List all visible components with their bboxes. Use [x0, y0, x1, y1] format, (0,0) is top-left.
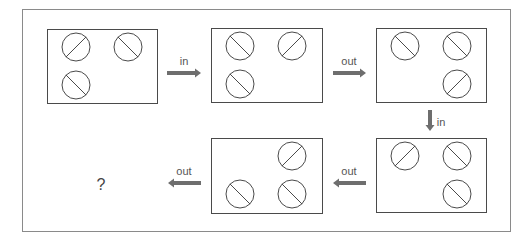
slot-circle-tl: [62, 33, 90, 61]
slash-forward-line: [66, 37, 86, 57]
arrow-out-2: out: [333, 55, 366, 78]
slash-back-line: [230, 184, 250, 204]
slash-back-line: [66, 75, 86, 95]
slot-circle-tr: [443, 142, 471, 170]
arrow-in-3: in: [426, 110, 446, 131]
slash-forward-line: [282, 36, 302, 56]
slot-circle-br: [278, 180, 306, 208]
slash-back-line: [118, 37, 138, 57]
slash-back-line: [230, 36, 250, 56]
slash-forward-line: [447, 74, 467, 94]
arrow-label: out: [341, 55, 356, 67]
panel-2: [212, 29, 323, 103]
slot-circle-tr: [114, 33, 142, 61]
slash-forward-line: [395, 146, 415, 166]
arrow-head: [333, 179, 339, 188]
slash-back-line: [395, 36, 415, 56]
answer-placeholder: ?: [97, 176, 106, 193]
arrow-in-1: in: [167, 55, 201, 78]
arrow-head: [195, 69, 201, 78]
slot-circle-bl: [226, 70, 254, 98]
arrow-label: out: [341, 165, 356, 177]
slash-back-line: [447, 36, 467, 56]
puzzle-diagram: inoutinoutout ?: [0, 0, 532, 241]
slot-circle-tl: [226, 32, 254, 60]
panel-4: [377, 139, 487, 213]
slash-back-line: [447, 184, 467, 204]
arrow-out-4: out: [333, 165, 366, 188]
slot-circle-tr: [278, 142, 306, 170]
slot-circle-bl: [62, 71, 90, 99]
slash-back-line: [282, 184, 302, 204]
arrow-label: in: [437, 116, 446, 128]
slot-circle-tr: [443, 32, 471, 60]
arrow-label: out: [176, 165, 191, 177]
slot-circle-br: [443, 70, 471, 98]
slot-circle-bl: [226, 180, 254, 208]
panel-5: [212, 139, 323, 214]
slash-back-line: [447, 146, 467, 166]
slot-circle-tr: [278, 32, 306, 60]
panel-1: [48, 30, 158, 104]
arrow-head: [426, 125, 435, 131]
slash-forward-line: [282, 146, 302, 166]
slot-circle-tl: [391, 142, 419, 170]
slash-back-line: [230, 74, 250, 94]
arrow-out-5: out: [168, 165, 201, 188]
slot-circle-br: [443, 180, 471, 208]
arrow-label: in: [180, 55, 189, 67]
slot-circle-tl: [391, 32, 419, 60]
arrow-head: [360, 69, 366, 78]
panel-3: [377, 29, 487, 103]
arrow-head: [168, 179, 174, 188]
